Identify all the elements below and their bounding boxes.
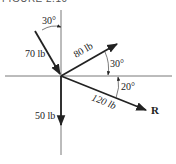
angle-arc-20 <box>116 77 119 98</box>
force-diagram: 30° 70 lb 80 lb 30° 20° 120 lb 50 lb R <box>0 0 176 164</box>
force-70-label: 70 lb <box>25 48 45 59</box>
force-50-label: 50 lb <box>35 110 55 121</box>
force-120-label: 120 lb <box>90 92 118 112</box>
resultant-label: R <box>151 104 160 116</box>
angle-label-30-right: 30° <box>110 58 124 69</box>
angle-arc-30-top <box>42 26 61 30</box>
force-80-label: 80 lb <box>72 40 95 60</box>
angle-arc-30-right <box>105 52 109 75</box>
angle-label-20: 20° <box>121 81 135 92</box>
angle-label-30-top: 30° <box>42 15 56 26</box>
